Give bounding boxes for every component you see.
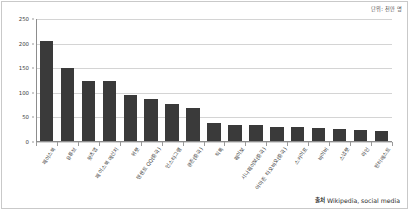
bar-slot	[36, 19, 57, 141]
x-tick-label: 스냅챗	[337, 146, 350, 162]
bar-slot	[224, 19, 245, 141]
y-axis: 050100150200250	[0, 19, 34, 142]
x-tick-label: 유튜브	[65, 146, 78, 162]
x-tick-mark	[204, 142, 205, 146]
y-tick-mark	[32, 43, 35, 44]
bar-slot	[78, 19, 99, 141]
bar-slot	[120, 19, 141, 141]
y-tick-label: 250	[19, 16, 29, 22]
x-tick-mark	[162, 142, 163, 146]
bar-slot	[287, 19, 308, 141]
x-tick-mark	[36, 142, 37, 146]
bar	[40, 41, 53, 141]
bar-slot	[141, 19, 162, 141]
bar-slot	[204, 19, 225, 141]
x-tick-label: 라인	[361, 146, 372, 158]
source-text: Wikipedia, social media	[327, 197, 400, 204]
bar	[291, 127, 304, 141]
y-tick-label: 200	[19, 41, 29, 47]
bar	[186, 108, 199, 141]
x-tick-mark	[308, 142, 309, 146]
y-tick-mark	[32, 142, 35, 143]
x-tick-mark	[224, 142, 225, 146]
bar-slot	[99, 19, 120, 141]
x-tick-mark	[245, 142, 246, 146]
x-tick-mark	[329, 142, 330, 146]
unit-note: 단위: 천만 명	[371, 5, 402, 12]
x-tick-label: 왓츠앱	[86, 146, 99, 162]
x-tick-mark	[183, 142, 184, 146]
x-tick-label: 페이스북	[41, 146, 57, 166]
x-tick-mark	[287, 142, 288, 146]
x-tick-mark	[371, 142, 372, 146]
y-tick-mark	[32, 117, 35, 118]
y-tick-label: 0	[26, 139, 29, 145]
bar-slot	[162, 19, 183, 141]
bar	[375, 131, 388, 141]
x-tick-label: 핀터레스트	[373, 146, 392, 170]
x-tick-mark	[78, 142, 79, 146]
y-tick-mark	[32, 92, 35, 93]
x-tick-label: 스카이프	[292, 146, 308, 166]
chart-figure: 단위: 천만 명 050100150200250 페이스북유튜브왓츠앱페이스북 …	[0, 0, 408, 210]
y-tick-label: 150	[19, 65, 29, 71]
bar-slot	[350, 19, 371, 141]
x-tick-mark	[350, 142, 351, 146]
x-axis-labels: 페이스북유튜브왓츠앱페이스북 메신저위챗텐센트 QQ(중국)인스타그램큐존(중국…	[36, 146, 392, 192]
y-tick-label: 100	[19, 90, 29, 96]
y-tick-mark	[32, 19, 35, 20]
y-tick-label: 50	[22, 114, 29, 120]
x-tick-mark	[392, 142, 393, 146]
bar	[333, 129, 346, 141]
bar	[354, 130, 367, 141]
x-tick-mark	[57, 142, 58, 146]
bar-slot	[371, 19, 392, 141]
bar	[61, 68, 74, 141]
bar	[103, 81, 116, 141]
x-tick-label: 위챗	[130, 146, 141, 158]
plot-area	[36, 19, 392, 142]
bar	[249, 125, 262, 141]
bar	[228, 125, 241, 141]
bar	[270, 127, 283, 141]
y-tick-mark	[32, 68, 35, 69]
bar	[165, 104, 178, 141]
x-tick-mark	[99, 142, 100, 146]
x-tick-mark	[141, 142, 142, 146]
source-label: 출처	[315, 196, 325, 204]
bar-slot	[183, 19, 204, 141]
x-tick-label: 웨이보	[232, 146, 245, 162]
bar	[207, 123, 220, 141]
x-tick-label: 인스타그램	[164, 146, 183, 170]
x-tick-label: 큐존(중국)	[185, 146, 204, 169]
x-tick-mark	[266, 142, 267, 146]
x-tick-label: 틱톡	[214, 146, 225, 158]
x-tick-label: 페이스북 메신저	[94, 146, 120, 179]
x-tick-label: 바이버	[316, 146, 329, 162]
source-attribution: 출처 Wikipedia, social media	[315, 196, 401, 204]
bar-series	[36, 19, 392, 142]
bar-slot	[308, 19, 329, 141]
bar-slot	[266, 19, 287, 141]
x-tick-mark	[120, 142, 121, 146]
bar-slot	[245, 19, 266, 141]
bar-slot	[57, 19, 78, 141]
bar	[144, 99, 157, 141]
bar	[124, 95, 137, 141]
bar-slot	[329, 19, 350, 141]
bar	[82, 81, 95, 141]
bar	[312, 128, 325, 141]
